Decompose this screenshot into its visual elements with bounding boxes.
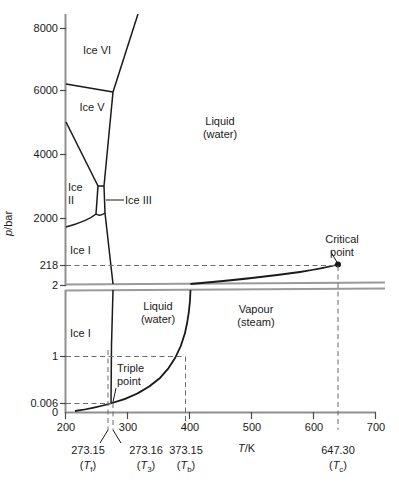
boundary-ice-ii-right	[96, 186, 98, 214]
x-axis-title-symbol: T	[238, 442, 245, 454]
region-label-vapour-line1: Vapour	[216, 303, 296, 316]
annotation-triple-point: Triple point	[117, 362, 144, 388]
region-label-ice-iii: Ice III	[125, 194, 152, 207]
boundary-ice-v-ice-ii	[66, 122, 98, 186]
annotation-critical-point-line1: Critical	[305, 233, 379, 246]
region-label-liquid-upper-line1: Liquid	[180, 115, 260, 128]
curve-sublimation	[75, 404, 111, 412]
region-label-vapour: Vapour (steam)	[216, 303, 296, 330]
region-label-ice-i-upper: Ice I	[70, 244, 91, 257]
y-axis-title-symbol: p	[2, 230, 14, 236]
y-tick-label-218: 218	[6, 259, 58, 272]
special-temp-symbol-tf: (Tf)	[60, 459, 116, 475]
special-temp-value-tb: 373.15	[158, 444, 214, 457]
region-label-ice-ii: Ice II	[68, 181, 83, 207]
x-tick-label-400: 400	[169, 421, 211, 434]
region-label-ice-ii-line2: II	[68, 194, 83, 207]
annotation-critical-point: Critical point	[305, 233, 379, 259]
y-tick-label-1: 1	[6, 350, 58, 363]
y-tick-label-4000: 4000	[6, 148, 58, 161]
curve-vaporization-upper	[191, 265, 339, 285]
boundary-ice-i-liquid-lower	[111, 290, 113, 403]
y-axis-title-sep: /	[2, 227, 14, 230]
special-temp-symbol-tf-sub: f	[90, 465, 92, 474]
x-axis-title: T/K	[238, 442, 255, 455]
y-tick-label-6000: 6000	[6, 84, 58, 97]
leader-triple-point	[113, 388, 116, 402]
region-label-vapour-line2: (steam)	[216, 316, 296, 329]
boundary-ice-i-liquid-upper	[105, 213, 113, 284]
x-tick-label-700: 700	[355, 421, 397, 434]
special-temp-symbol-tb-sub: b	[187, 465, 191, 474]
annotation-triple-point-line1: Triple	[117, 362, 144, 375]
region-label-liquid-lower: Liquid (water)	[118, 300, 198, 327]
special-temp-symbol-tc-sub: c	[339, 465, 343, 474]
special-temp-symbol-t3-sub: 3	[147, 465, 151, 474]
boundary-ice-iii-right	[104, 186, 105, 213]
region-label-ice-vi: Ice VI	[62, 44, 132, 57]
phase-diagram-figure: p/bar 8000 6000 4000 2000 218 2 1 0.006 …	[0, 0, 399, 487]
y-tick-label-0: 0	[6, 406, 58, 419]
special-temp-value-tf: 273.15	[60, 444, 116, 457]
y-tick-label-8000: 8000	[6, 22, 58, 35]
region-label-liquid-upper: Liquid (water)	[180, 115, 260, 142]
region-label-ice-ii-line1: Ice	[68, 181, 83, 194]
region-label-ice-v: Ice V	[60, 101, 124, 114]
x-axis-title-unit: K	[248, 442, 255, 454]
annotation-triple-point-line2: point	[117, 375, 144, 388]
special-temp-symbol-tb: (Tb)	[158, 459, 214, 475]
y-tick-label-2: 2	[6, 279, 58, 292]
x-tick-label-500: 500	[231, 421, 273, 434]
y-tick-label-2000: 2000	[6, 212, 58, 225]
special-temp-value-tc: 647.30	[310, 444, 366, 457]
x-tick-label-300: 300	[107, 421, 149, 434]
x-tick-label-200: 200	[45, 421, 87, 434]
boundary-ice-ii-ice-i	[66, 214, 96, 227]
boundary-ice-vi-ice-v	[66, 84, 113, 92]
annotation-critical-point-line2: point	[305, 246, 379, 259]
special-temp-symbol-tc: (Tc)	[310, 459, 366, 475]
region-label-ice-i-lower: Ice I	[70, 327, 91, 340]
region-label-liquid-lower-line2: (water)	[118, 313, 198, 326]
boundary-ice-iii-ice-i	[96, 213, 105, 215]
x-tick-label-600: 600	[293, 421, 335, 434]
region-label-liquid-lower-line1: Liquid	[118, 300, 198, 313]
region-label-liquid-upper-line2: (water)	[180, 128, 260, 141]
